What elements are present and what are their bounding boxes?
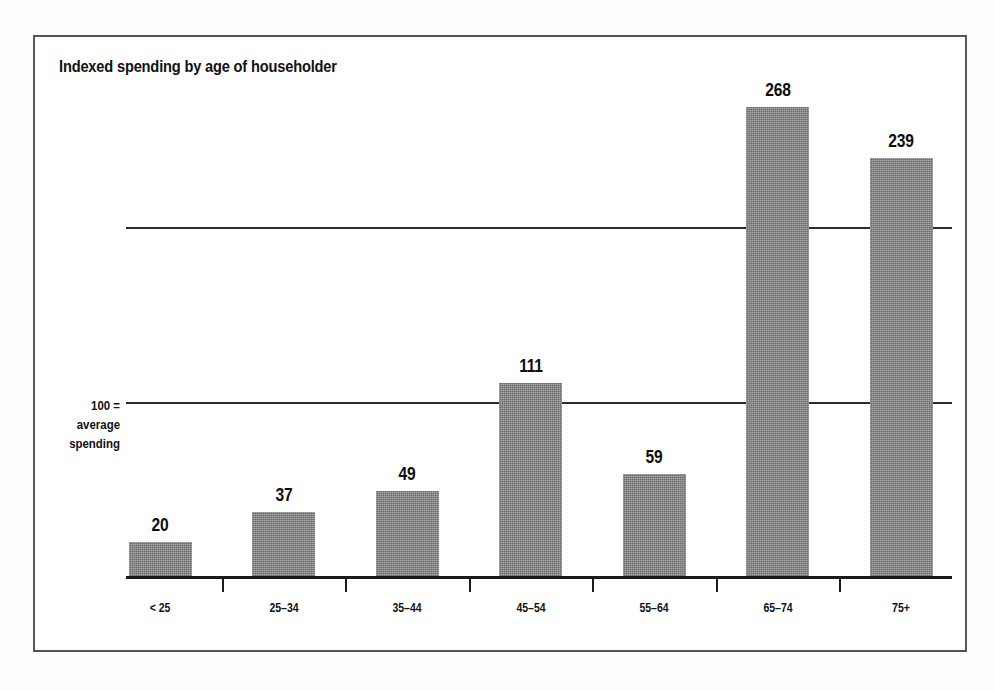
y-axis-caption: 100 = average spending <box>57 396 120 453</box>
chart-frame <box>33 35 967 652</box>
chart-title: Indexed spending by age of householder <box>59 57 337 77</box>
y-axis-caption-line-2: average <box>57 415 120 434</box>
chart-page: Indexed spending by age of householder 1… <box>0 0 994 691</box>
y-axis-caption-line-1: 100 = <box>57 396 120 415</box>
y-axis-caption-line-3: spending <box>57 434 120 453</box>
